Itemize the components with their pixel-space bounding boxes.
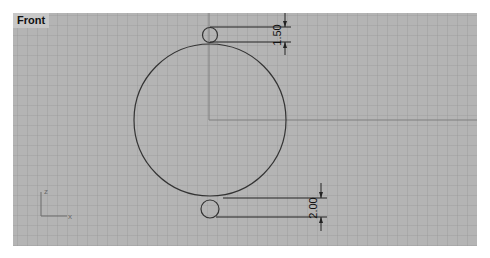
- dimension-top-value: 1.50: [271, 24, 283, 45]
- dimension-bottom[interactable]: 2.00: [216, 183, 327, 231]
- axes-widget: z x: [41, 187, 72, 221]
- dimension-top[interactable]: 1.50: [210, 13, 291, 55]
- bottom-small-circle[interactable]: [201, 200, 219, 218]
- dimension-bottom-value: 2.00: [307, 197, 319, 218]
- viewport-canvas[interactable]: 1.50 2.00 z x: [13, 13, 477, 246]
- x-axis-label: x: [68, 212, 72, 221]
- z-axis-label: z: [44, 187, 48, 196]
- top-small-circle[interactable]: [203, 28, 218, 43]
- viewport-title[interactable]: Front: [13, 13, 49, 28]
- front-viewport[interactable]: 1.50 2.00 z x Front: [13, 13, 477, 246]
